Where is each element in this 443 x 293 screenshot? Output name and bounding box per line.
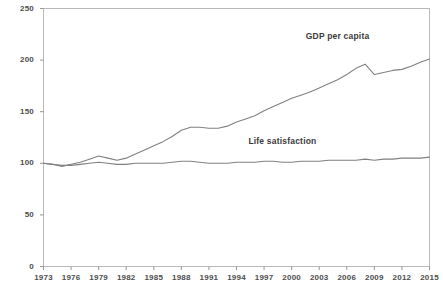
annotation-gdp-per-capita: GDP per capita xyxy=(306,31,370,41)
y-tick-label-250: 250 xyxy=(4,4,34,13)
y-tick-label-100: 100 xyxy=(4,158,34,167)
x-tick-label-2015: 2015 xyxy=(413,273,443,282)
y-tick-label-0: 0 xyxy=(4,262,34,271)
y-tick-label-50: 50 xyxy=(4,210,34,219)
chart-canvas xyxy=(0,0,443,293)
y-tick-label-200: 200 xyxy=(4,55,34,64)
line-life-satisfaction xyxy=(44,157,430,165)
y-tick-label-150: 150 xyxy=(4,107,34,116)
axis-tick-marks xyxy=(40,9,430,271)
line-gdp-per-capita xyxy=(44,59,430,166)
chart-figure: 050100150200250 197319761979198219851988… xyxy=(0,0,443,293)
annotation-life-satisfaction: Life satisfaction xyxy=(248,136,316,146)
